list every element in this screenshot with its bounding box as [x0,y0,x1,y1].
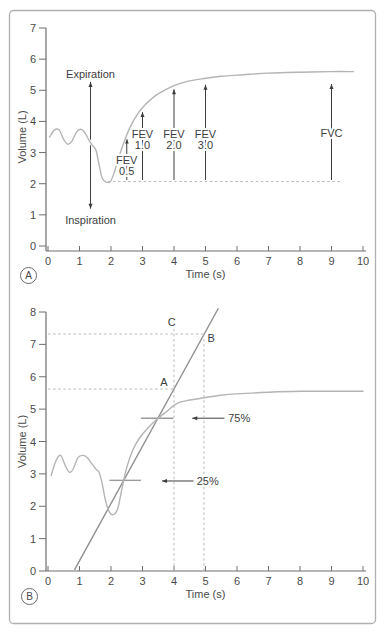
x-axis-title: Time (s) [186,268,226,280]
x-tick-label: 5 [202,255,208,267]
x-tick-label: 5 [202,575,208,587]
annotation-label: A [160,376,168,388]
x-tick-label: 4 [171,575,177,587]
y-tick-label: 2 [30,500,36,512]
y-tick-label: 5 [30,403,36,415]
x-tick-label: 9 [328,255,334,267]
x-tick-label: 8 [297,255,303,267]
y-tick-label: 2 [30,178,36,190]
annotation-label: FVC [321,127,343,139]
y-tick-label: 1 [30,209,36,221]
y-tick-label: 4 [30,115,36,127]
y-tick-label: 5 [30,84,36,96]
x-tick-label: 6 [234,575,240,587]
annotation-label: 0.5 [119,165,134,177]
x-tick-label: 0 [45,255,51,267]
figure-border [10,11,376,624]
x-tick-label: 3 [139,575,145,587]
y-tick-label: 4 [30,436,36,448]
x-tick-label: 6 [234,255,240,267]
x-tick-label: 0 [45,575,51,587]
y-axis-title: Volume (L) [16,415,28,468]
y-tick-label: 3 [30,468,36,480]
y-axis-title: Volume (L) [16,110,28,163]
annotation-label: 75% [228,412,250,424]
y-tick-label: 3 [30,147,36,159]
annotation-label: 2.0 [166,139,181,151]
annotation-label: Expiration [66,68,115,80]
x-tick-label: 2 [108,575,114,587]
y-tick-label: 8 [30,306,36,318]
x-tick-label: 7 [265,575,271,587]
x-tick-label: 1 [76,255,82,267]
x-tick-label: 1 [76,575,82,587]
x-tick-label: 8 [297,575,303,587]
panel-label-b: B [21,588,38,605]
x-tick-label: 7 [265,255,271,267]
x-axis-title: Time (s) [186,588,226,600]
y-tick-label: 7 [30,338,36,350]
annotation-label: C [168,316,176,328]
y-tick-label: 6 [30,371,36,383]
annotation-label: B [207,332,214,344]
x-tick-label: 3 [139,255,145,267]
x-tick-label: 4 [171,255,177,267]
x-tick-label: 9 [328,575,334,587]
panel-label-a: A [20,267,37,284]
y-tick-label: 1 [30,533,36,545]
y-tick-label: 0 [30,240,36,252]
x-tick-label: 10 [357,255,369,267]
annotation-label: 25% [197,475,219,487]
annotation-label: 3.0 [198,139,213,151]
annotation-label: 1.0 [135,139,150,151]
y-tick-label: 7 [30,22,36,34]
y-tick-label: 6 [30,53,36,65]
figure-canvas: 01234567891001234567Time (s)Volume (L)Ex… [0,0,386,632]
spirometry-figure: 01234567891001234567Time (s)Volume (L)Ex… [0,0,386,632]
x-tick-label: 2 [108,255,114,267]
y-tick-label: 0 [30,565,36,577]
x-tick-label: 10 [357,575,369,587]
annotation-label: Inspiration [65,214,116,226]
